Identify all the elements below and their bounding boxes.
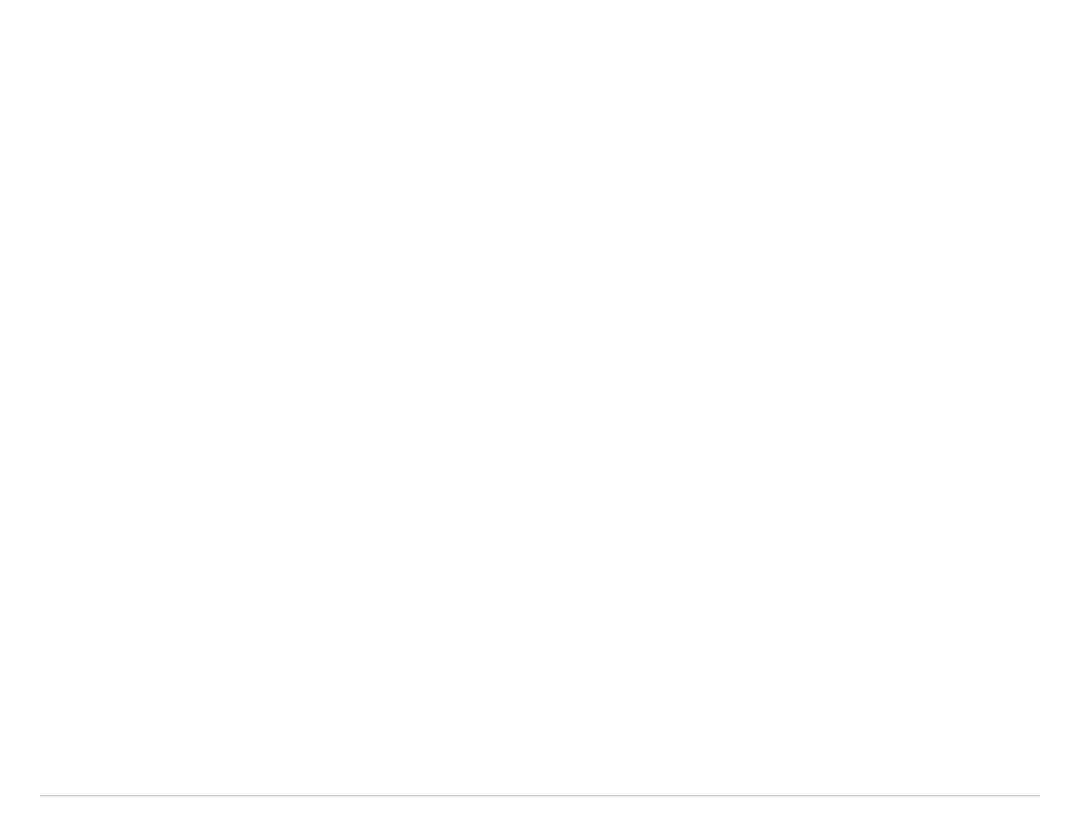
csht-line-chart [0,0,1081,818]
chart-background [0,0,1081,818]
chart-container [0,0,1081,818]
footer-divider [40,795,1040,797]
